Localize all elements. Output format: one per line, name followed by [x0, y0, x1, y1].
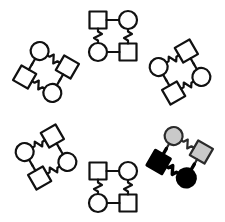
- motif-cluster-2-o-clock[interactable]: [146, 39, 213, 106]
- motif-cluster-8-o-clock[interactable]: [12, 124, 79, 191]
- motif-half-right: [89, 163, 114, 213]
- motif-cluster-10-o-clock[interactable]: [12, 39, 79, 106]
- motif-half-left: [112, 162, 137, 212]
- motif-cluster-4-o-clock[interactable]: [146, 124, 213, 191]
- diagram-canvas: [0, 0, 225, 222]
- motif-cluster-6-o-clock[interactable]: [89, 162, 137, 212]
- motif-ring-svg: [0, 0, 225, 222]
- motif-cluster-12-o-clock[interactable]: [89, 11, 137, 61]
- clusters-layer: [12, 11, 213, 212]
- motif-half-right: [112, 11, 137, 61]
- motif-half-left: [89, 12, 114, 62]
